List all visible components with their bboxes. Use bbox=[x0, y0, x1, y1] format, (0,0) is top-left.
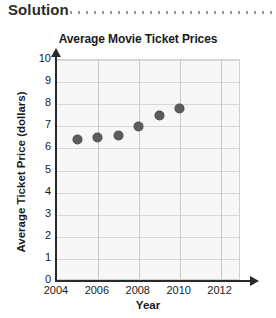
x-tick-label: 2008 bbox=[118, 284, 158, 296]
y-tick-label: 3 bbox=[31, 207, 51, 219]
y-tick-label: 2 bbox=[31, 229, 51, 241]
data-point bbox=[73, 135, 82, 144]
gridline-horizontal bbox=[57, 126, 239, 127]
y-tick-label: 8 bbox=[31, 96, 51, 108]
gridline-horizontal bbox=[57, 104, 239, 105]
gridline-horizontal bbox=[57, 60, 239, 61]
x-axis-arrow-icon bbox=[250, 276, 259, 286]
data-point bbox=[134, 122, 143, 131]
chart-container: Average Movie Ticket Prices 012345678910… bbox=[0, 26, 276, 318]
y-tick-label: 10 bbox=[31, 52, 51, 64]
gridline-horizontal bbox=[57, 148, 239, 149]
solution-header: Solution bbox=[0, 0, 276, 26]
y-tick-label: 5 bbox=[31, 163, 51, 175]
x-axis-title: Year bbox=[56, 299, 240, 311]
gridline-horizontal bbox=[57, 171, 239, 172]
data-point bbox=[155, 111, 164, 120]
y-axis-arrow-icon bbox=[51, 48, 61, 57]
x-tick-label: 2004 bbox=[36, 284, 76, 296]
gridline-vertical bbox=[98, 60, 99, 279]
y-tick-label: 7 bbox=[31, 118, 51, 130]
dotted-rule-icon bbox=[70, 11, 276, 14]
y-tick-label: 4 bbox=[31, 185, 51, 197]
gridline-vertical bbox=[221, 60, 222, 279]
y-tick-label: 6 bbox=[31, 140, 51, 152]
gridline-horizontal bbox=[57, 82, 239, 83]
x-tick-label: 2010 bbox=[159, 284, 199, 296]
gridline-vertical bbox=[139, 60, 140, 279]
gridline-horizontal bbox=[57, 259, 239, 260]
y-axis-tick-labels: 012345678910 bbox=[28, 26, 51, 318]
x-tick-label: 2006 bbox=[77, 284, 117, 296]
gridline-horizontal bbox=[57, 215, 239, 216]
data-point bbox=[93, 133, 102, 142]
x-tick-label: 2012 bbox=[200, 284, 240, 296]
solution-label: Solution bbox=[8, 1, 69, 18]
gridline-horizontal bbox=[57, 237, 239, 238]
gridline-horizontal bbox=[57, 193, 239, 194]
gridline-vertical bbox=[180, 60, 181, 279]
y-tick-label: 9 bbox=[31, 74, 51, 86]
data-point bbox=[114, 131, 123, 140]
plot-area bbox=[56, 59, 240, 280]
y-axis-title: Average Ticket Price (dollars) bbox=[15, 72, 27, 272]
data-point bbox=[175, 104, 184, 113]
y-tick-label: 1 bbox=[31, 251, 51, 263]
x-axis-line bbox=[55, 280, 252, 282]
y-axis-line bbox=[55, 55, 57, 282]
